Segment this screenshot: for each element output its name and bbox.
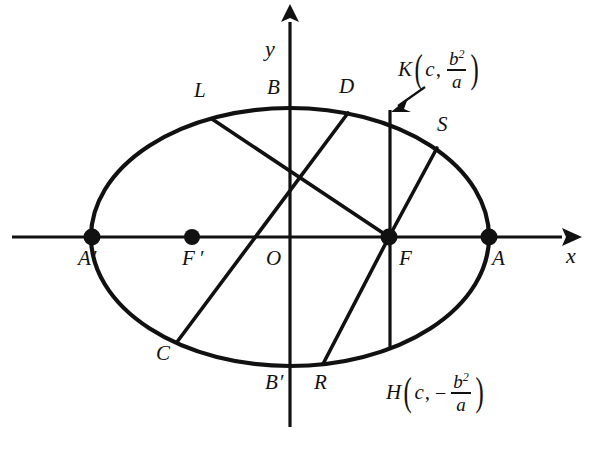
coord-label-H-open-paren: ( — [404, 376, 412, 409]
coord-label-H-fraction: b2 a — [451, 371, 471, 414]
coord-label-K-num-exponent: 2 — [458, 47, 464, 61]
coord-label-K-open-paren: ( — [415, 53, 423, 86]
axes-group — [12, 4, 582, 427]
coord-label-K-num-base: b — [449, 48, 459, 69]
coord-label-H-close-paren: ) — [475, 376, 483, 409]
point-label-B: B — [267, 77, 280, 98]
prime-glyph-B: ′ — [279, 370, 284, 394]
coord-label-H-num-base: b — [453, 371, 463, 392]
coord-label-H-denominator: a — [454, 394, 468, 414]
point-label-B-prime: B′ — [265, 372, 283, 393]
point-label-A-prime: A′ — [78, 248, 96, 269]
chord-D-C — [177, 113, 348, 342]
point-label-F: F — [399, 248, 412, 269]
point-label-R: R — [314, 372, 327, 393]
origin-label: O — [266, 248, 281, 269]
coord-label-K-denominator: a — [450, 71, 464, 91]
coord-label-K-comma: , — [436, 59, 441, 80]
coord-label-H-minus-sign: − — [435, 383, 446, 403]
x-axis-label: x — [566, 245, 576, 267]
point-label-F-prime-letter: F — [182, 246, 195, 270]
point-label-B-prime-letter: B — [265, 370, 278, 394]
prime-glyph-A: ′ — [92, 246, 97, 270]
point-label-D: D — [339, 76, 354, 97]
coord-label-K-numerator: b2 — [447, 48, 467, 69]
coord-label-H-num-exponent: 2 — [463, 370, 469, 384]
coord-label-K-name: K — [398, 59, 412, 80]
point-marker-F — [381, 229, 398, 246]
ellipse-figure: y x O A A′ F F′ B B′ L D S C R K ( c , b… — [0, 0, 589, 455]
coord-label-K-x: c — [425, 59, 434, 80]
diagram-canvas — [0, 0, 589, 455]
y-axis-label: y — [265, 38, 275, 60]
coord-label-H-x: c — [415, 382, 424, 403]
point-marker-A-prime — [84, 229, 101, 246]
point-label-A: A — [492, 248, 505, 269]
prime-glyph-F: ′ — [199, 246, 204, 270]
coord-label-K-fraction: b2 a — [447, 48, 467, 91]
point-label-F-prime: F′ — [182, 248, 203, 269]
chord-S-F — [389, 148, 437, 237]
point-label-L: L — [194, 80, 206, 101]
coord-label-H-numerator: b2 — [451, 371, 471, 392]
point-label-A-prime-letter: A — [78, 246, 91, 270]
chord-R-F — [323, 237, 389, 364]
coord-label-K-close-paren: ) — [471, 53, 479, 86]
point-label-S: S — [437, 114, 448, 135]
coord-label-H: H ( c , − b2 a ) — [386, 371, 486, 414]
point-label-C: C — [156, 343, 170, 364]
coord-label-H-comma: , — [425, 382, 430, 403]
coord-label-H-name: H — [386, 382, 401, 403]
y-axis-arrowhead — [281, 4, 299, 22]
point-marker-A — [481, 229, 498, 246]
coord-label-K: K ( c , b2 a ) — [398, 48, 482, 91]
point-marker-F-prime — [184, 229, 200, 245]
